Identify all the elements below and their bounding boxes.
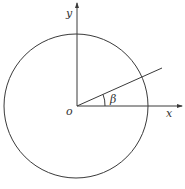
angle-ray (77, 68, 162, 106)
coordinate-diagram: y x o β (0, 0, 185, 189)
y-axis-label: y (65, 7, 73, 20)
x-axis-label: x (166, 107, 173, 120)
angle-label: β (109, 93, 116, 106)
angle-arc (103, 94, 105, 106)
origin-label: o (66, 105, 73, 118)
